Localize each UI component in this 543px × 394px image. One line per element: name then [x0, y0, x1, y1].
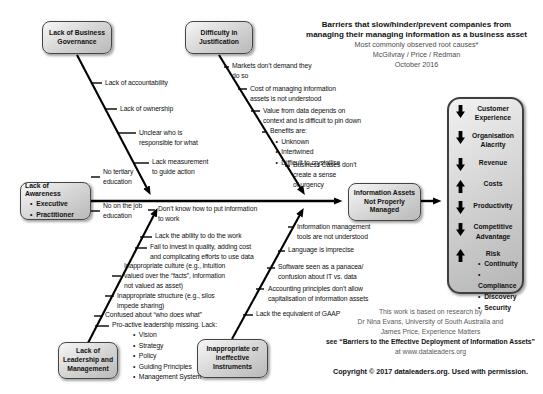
category-box-lack-of-awareness: Lack of Awareness • Executive • Practiti…: [20, 182, 91, 220]
outcome-label: Organisation Alacrity: [467, 131, 519, 150]
diagram-title: Barriers that slow/hinder/prevent compan…: [290, 20, 543, 70]
attribution-block: This work is based on research by Dr Nin…: [318, 307, 543, 357]
cause-label: Information management tools are not und…: [297, 222, 370, 242]
credit-line: Dr Nina Evans, University of South Austr…: [318, 317, 543, 327]
cause-label: Lack the ability to do the work: [155, 231, 241, 241]
outcome-label: Competitive Advantage: [467, 222, 519, 241]
cause-label: Cost of managing information assets is n…: [250, 84, 336, 104]
title-subtitle: Most commonly observed root causes*: [290, 40, 543, 50]
cause-label: Lack of accountability: [105, 78, 168, 88]
category-box-business-governance: Lack of Business Governance: [42, 21, 112, 54]
effect-box: Information Assets Not Properly Managed: [348, 183, 421, 221]
outcome-label: Revenue: [467, 158, 519, 167]
down-arrow-icon: [454, 201, 467, 215]
cause-label: Accounting principles don’t allow capita…: [268, 284, 368, 304]
cause-label: Value from data depends on context and i…: [263, 106, 361, 126]
copyright-line: Copyright © 2017 dataleaders.org. Used w…: [318, 367, 543, 376]
category-box-ineffective-instruments: Inappropriate or ineffective Instruments: [197, 339, 268, 378]
outcome-risk-group: Risk • Continuity • Compliance • Discove…: [467, 249, 519, 313]
awareness-box-title: Lack of Awareness: [25, 182, 86, 200]
outcome-label: Risk: [467, 249, 519, 258]
cause-label: Don’t know how to put information to wor…: [158, 204, 257, 224]
cause-label: Language is imprecise: [288, 245, 354, 255]
title-line: managing their managing information as a…: [290, 30, 543, 40]
credit-url: at www.dataleaders.org: [318, 347, 543, 357]
down-arrow-icon: [454, 222, 467, 236]
down-arrow-icon: [454, 104, 467, 118]
awareness-box-bullets: • Executive • Practitioner: [25, 199, 74, 220]
outcome-label: Customer Experience: [467, 104, 519, 123]
cause-label: Business Cases don’t create a sense of u…: [293, 160, 356, 189]
cause-label: Unclear who is responsible for what: [139, 128, 198, 148]
cause-label: Lack of ownership: [120, 104, 173, 114]
title-authors: McGilvray / Price / Redman: [290, 50, 543, 60]
cause-label: Markets don’t demand they do so: [232, 61, 311, 81]
credit-line: James Price, Experience Matters: [318, 327, 543, 337]
outcome-item: Organisation Alacrity: [454, 131, 519, 150]
category-box-difficulty-justification: Difficulty in Justification: [185, 21, 253, 54]
down-arrow-icon: [454, 158, 467, 172]
cause-label: No tertiary education: [103, 167, 133, 187]
up-arrow-icon: [454, 249, 467, 263]
title-date: October 2016: [290, 60, 543, 70]
cause-label: Pro-active leadership missing. Lack:: [112, 320, 217, 330]
cause-label: No on the job education: [103, 201, 142, 221]
outcome-item: Productivity: [454, 201, 519, 215]
cause-label: Fail to invest in quality, adding cost a…: [150, 242, 254, 262]
credit-line: This work is based on research by: [318, 307, 543, 317]
cause-label: Inappropriate structure (e.g., silos imp…: [117, 291, 215, 311]
category-box-leadership-management: Lack of Leadership and Management: [58, 342, 118, 379]
down-arrow-icon: [454, 131, 467, 145]
credit-reference: see “Barriers to the Effective Deploymen…: [318, 337, 543, 347]
outcome-label: Costs: [467, 179, 519, 188]
outcome-item: Customer Experience: [454, 104, 519, 123]
outcome-item: Risk • Continuity • Compliance • Discove…: [454, 249, 519, 313]
outcome-label: Productivity: [467, 201, 519, 210]
cause-label: Confused about “who does what”: [105, 310, 202, 320]
cause-label: Software seen as a panacea/ confusion ab…: [278, 262, 363, 282]
up-arrow-icon: [454, 179, 467, 193]
cause-label: Lack measurement to guide action: [152, 157, 208, 177]
cause-label-bullet-list: • Vision • Strategy • Policy • Guiding P…: [133, 330, 201, 383]
outcome-risk-bullets: • Continuity • Compliance • Discovery • …: [467, 259, 519, 313]
fishbone-diagram: Barriers that slow/hinder/prevent compan…: [0, 0, 543, 394]
outcome-item: Competitive Advantage: [454, 222, 519, 241]
outcomes-panel: Customer Experience Organisation Alacrit…: [447, 97, 524, 294]
outcome-item: Revenue: [454, 158, 519, 172]
title-line: Barriers that slow/hinder/prevent compan…: [290, 20, 543, 30]
cause-label: Inappropriate culture (e.g., intuition v…: [124, 261, 225, 290]
outcome-item: Costs: [454, 179, 519, 193]
